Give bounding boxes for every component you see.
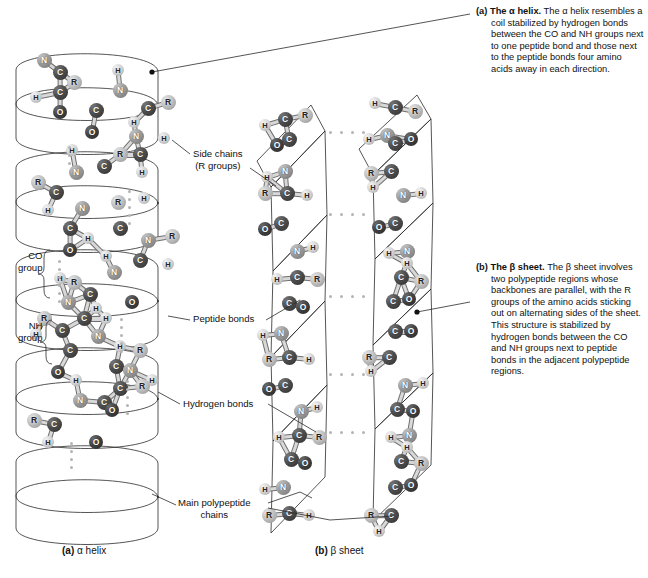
caption-b-body: The β sheet involves two polypeptide reg… <box>491 262 641 376</box>
subcaption-a-text: α helix <box>74 545 106 556</box>
caption-a-lead: The α helix. <box>490 6 541 16</box>
caption-a-marker: (a) <box>476 6 487 16</box>
label-peptide-bonds: Peptide bonds <box>193 313 254 325</box>
figure-protein-secondary-structure: NCRHCOHNCOCRHNHRCHHNCRCHNCRHOCHNRCHNHRHC… <box>0 0 648 578</box>
main-chains-line1: Main polypeptide <box>178 497 251 508</box>
caption-b-marker: (b) <box>476 262 488 272</box>
subcaption-b-marker: (b) <box>315 545 328 556</box>
label-co-group: CO group <box>18 250 43 273</box>
side-chains-line1: Side chains <box>193 148 243 159</box>
label-hydrogen-bonds: Hydrogen bonds <box>183 398 253 410</box>
main-chains-line2: chains <box>200 509 228 520</box>
caption-alpha-helix: (a) The α helix. The α helix resembles a… <box>476 6 644 76</box>
label-side-chains: Side chains (R groups) <box>193 148 243 171</box>
co-group-line1: CO <box>28 250 42 261</box>
subcaption-alpha-helix: (a) α helix <box>62 545 106 556</box>
subcaption-beta-sheet: (b) β sheet <box>315 545 364 556</box>
side-chains-line2: (R groups) <box>195 160 240 171</box>
co-group-line2: group <box>18 262 43 273</box>
label-nh-group: NH group <box>18 320 43 343</box>
nh-group-line2: group <box>18 332 43 343</box>
subcaption-a-marker: (a) <box>62 545 74 556</box>
caption-beta-sheet: (b) The β sheet. The β sheet involves tw… <box>476 262 644 378</box>
caption-a-body: The α helix resembles a coil stabilized … <box>491 6 643 74</box>
subcaption-b-text: β sheet <box>328 545 364 556</box>
label-main-polypeptide-chains: Main polypeptide chains <box>178 497 251 520</box>
caption-b-lead: The β sheet. <box>490 262 544 272</box>
nh-group-line1: NH <box>29 320 43 331</box>
